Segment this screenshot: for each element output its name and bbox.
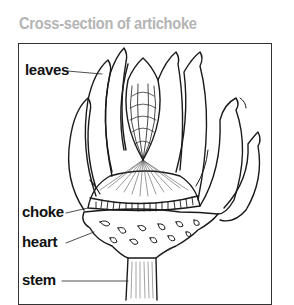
label-choke: choke: [22, 203, 64, 220]
choke-drawing: [88, 160, 200, 211]
heart-leader: [66, 232, 94, 243]
leaves-leader: [67, 71, 102, 74]
stem-drawing: [126, 258, 157, 300]
inner-leaves-drawing: [126, 58, 160, 160]
label-heart: heart: [22, 233, 57, 250]
label-stem: stem: [22, 271, 56, 288]
leader-lines: [62, 71, 128, 281]
label-leaves: leaves: [25, 61, 69, 78]
heart-drawing: [83, 209, 218, 258]
